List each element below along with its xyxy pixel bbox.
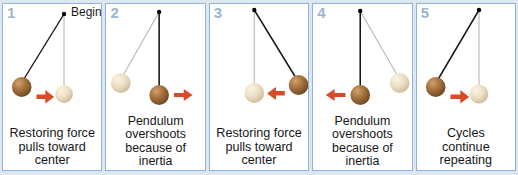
dark-ball: [425, 77, 445, 97]
caption-line: because of: [107, 142, 203, 155]
panel-caption: Pendulum overshoots because of inertia: [106, 115, 204, 168]
force-arrow-left: [267, 87, 285, 100]
caption-line: Restoring force: [4, 127, 100, 141]
caption-line: because of: [314, 142, 410, 155]
caption-line: pulls toward: [211, 141, 307, 155]
light-ball: [55, 85, 73, 103]
ghost-string: [123, 12, 159, 76]
light-ball: [469, 85, 488, 104]
force-arrow-right: [174, 89, 193, 101]
dark-ball: [12, 77, 32, 97]
dark-ball: [351, 85, 371, 105]
pivot-point: [358, 9, 362, 13]
pendulum-stage: [417, 4, 515, 116]
caption-line: center: [211, 154, 307, 168]
panel-2: 2: [105, 3, 205, 171]
pendulum-stage: [106, 4, 204, 116]
caption-line: Cycles: [418, 127, 514, 141]
string: [254, 10, 296, 79]
caption-line: inertia: [314, 155, 410, 168]
pendulum-stage: [3, 4, 101, 116]
caption-line: center: [4, 154, 100, 168]
panel-caption: Restoring force pulls toward center: [210, 127, 308, 168]
light-ball: [390, 73, 410, 93]
pendulum-stage: [313, 4, 411, 116]
pendulum-stage: [210, 4, 308, 116]
force-arrow-right: [450, 90, 469, 104]
begin-label: Begin: [71, 6, 102, 19]
force-arrow-right: [36, 90, 54, 104]
panel-caption: Restoring force pulls toward center: [3, 127, 101, 168]
force-arrow-left: [326, 89, 346, 101]
pivot-point: [476, 8, 480, 12]
pendulum-diagram: 1: [0, 0, 518, 175]
light-ball: [244, 83, 264, 103]
pivot-point: [252, 8, 256, 12]
panel-caption: Pendulum overshoots because of inertia: [313, 115, 411, 168]
panel-3: 3: [209, 3, 309, 171]
caption-line: pulls toward: [4, 141, 100, 155]
pivot-point: [62, 12, 66, 16]
caption-line: repeating: [418, 154, 514, 168]
panel-caption: Cycles continue repeating: [417, 127, 515, 168]
ghost-string: [360, 11, 397, 76]
caption-line: Restoring force: [211, 127, 307, 141]
panel-1: 1: [2, 3, 102, 171]
caption-line: overshoots: [107, 128, 203, 141]
string: [23, 14, 64, 81]
caption-line: inertia: [107, 155, 203, 168]
panel-4: 4: [312, 3, 412, 171]
dark-ball: [150, 85, 170, 105]
string: [437, 10, 478, 80]
caption-line: overshoots: [314, 128, 410, 141]
caption-line: continue: [418, 141, 514, 155]
dark-ball: [289, 75, 309, 95]
panel-5: 5: [416, 3, 516, 171]
pivot-point: [157, 10, 161, 14]
light-ball: [111, 73, 131, 93]
